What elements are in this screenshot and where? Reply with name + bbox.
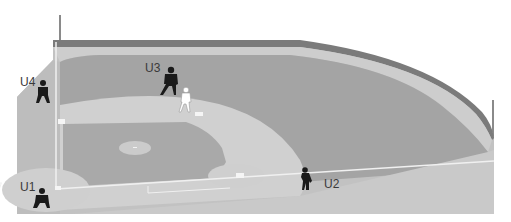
umpire-u4-label: U4: [20, 75, 36, 89]
third-base: [58, 119, 65, 124]
umpire-u3-label: U3: [145, 61, 161, 75]
second-base: [195, 112, 203, 116]
umpire-u2-label: U2: [324, 177, 340, 191]
infield-grass: [63, 122, 226, 186]
bottom-margin: [0, 214, 511, 222]
umpire-u1-label: U1: [20, 180, 36, 194]
pitchers-rubber: [133, 147, 137, 148]
batters-box: [0, 183, 1, 195]
first-base: [236, 173, 244, 178]
baseball-field-diagram: U4 U3 U1 U2: [0, 0, 511, 222]
home-plate: [55, 186, 61, 190]
